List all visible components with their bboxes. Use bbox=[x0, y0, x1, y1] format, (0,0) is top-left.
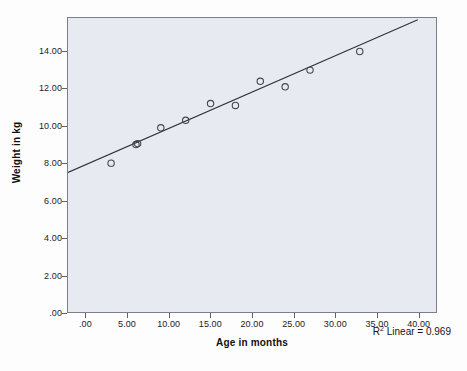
x-axis-tick-mark bbox=[419, 313, 420, 318]
x-axis-tick-mark bbox=[85, 313, 86, 318]
x-axis-title: Age in months bbox=[67, 337, 437, 348]
y-axis-tick-mark bbox=[62, 238, 67, 239]
y-axis-tick-mark bbox=[62, 163, 67, 164]
y-axis-tick-mark bbox=[62, 88, 67, 89]
data-point bbox=[257, 78, 263, 84]
x-axis-tick-mark bbox=[169, 313, 170, 318]
y-axis-tick-mark bbox=[62, 201, 67, 202]
y-axis-tick-mark bbox=[62, 126, 67, 127]
y-axis-tick-label: 4.00 bbox=[16, 233, 62, 243]
r-squared-prefix: R bbox=[373, 326, 380, 337]
r-squared-superscript: 2 bbox=[380, 325, 384, 332]
y-axis-tick-label: 10.00 bbox=[16, 121, 62, 131]
r-squared-text: Linear = 0.969 bbox=[384, 326, 451, 337]
y-axis-tick-label: 2.00 bbox=[16, 271, 62, 281]
y-axis-tick-mark bbox=[62, 276, 67, 277]
r-squared-annotation: R2 Linear = 0.969 bbox=[373, 326, 451, 337]
data-point bbox=[307, 67, 313, 73]
y-axis-title: Weight in kg bbox=[11, 93, 22, 213]
regression-line bbox=[68, 20, 418, 173]
x-axis-tick-mark bbox=[335, 313, 336, 318]
data-point bbox=[207, 100, 213, 106]
x-axis-tick-mark bbox=[127, 313, 128, 318]
data-point bbox=[108, 160, 114, 166]
y-axis-tick-label: 8.00 bbox=[16, 158, 62, 168]
plot-area bbox=[67, 17, 437, 313]
y-axis-tick-label: 14.00 bbox=[16, 46, 62, 56]
y-axis-tick-mark bbox=[62, 51, 67, 52]
plot-canvas bbox=[68, 18, 436, 312]
x-axis-tick-mark bbox=[294, 313, 295, 318]
regression-line-segment bbox=[68, 20, 418, 173]
y-axis-tick-label: 12.00 bbox=[16, 83, 62, 93]
data-point bbox=[357, 48, 363, 54]
y-axis-tick-mark bbox=[62, 313, 67, 314]
x-axis-tick-mark bbox=[252, 313, 253, 318]
data-point bbox=[232, 102, 238, 108]
x-axis-tick-mark bbox=[210, 313, 211, 318]
scatter-plot-figure: .002.004.006.008.0010.0012.0014.00 .005.… bbox=[0, 0, 467, 371]
data-point bbox=[158, 125, 164, 131]
y-axis-tick-label: .00 bbox=[16, 308, 62, 318]
data-points-group bbox=[108, 48, 363, 166]
x-axis-tick-mark bbox=[377, 313, 378, 318]
data-point bbox=[282, 84, 288, 90]
y-axis-tick-label: 6.00 bbox=[16, 196, 62, 206]
